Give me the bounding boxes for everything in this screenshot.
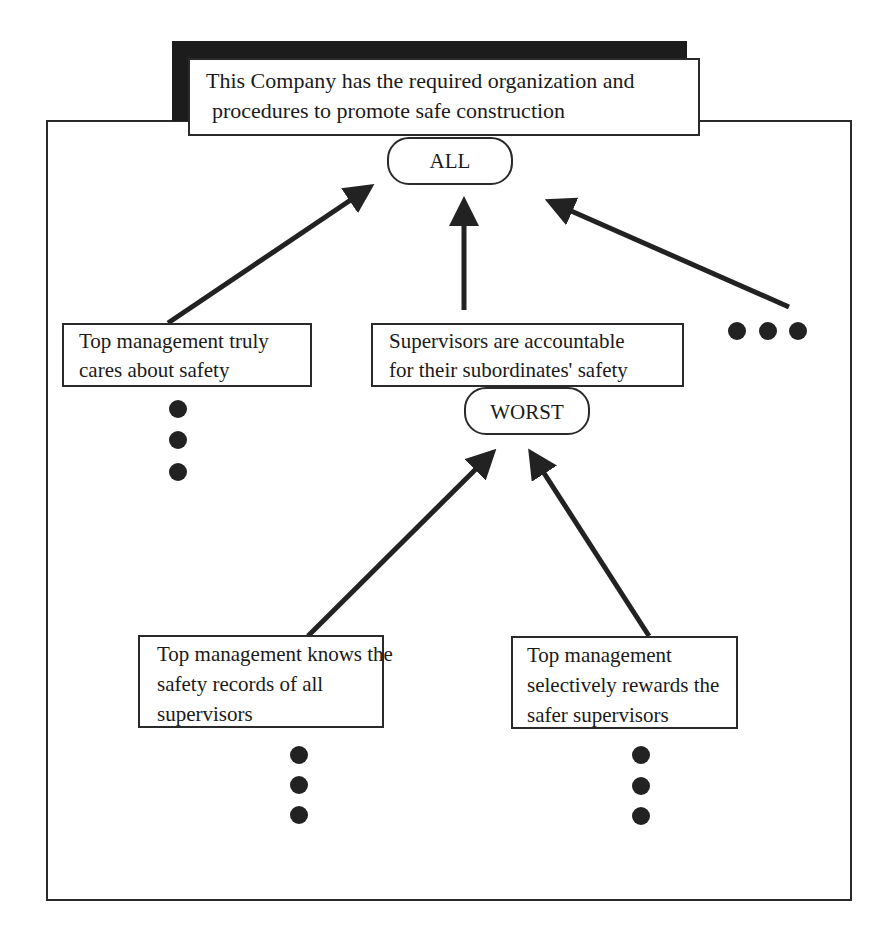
node-top-mgmt-cares-line-2: cares about safety <box>79 356 300 385</box>
node-mgmt-rewards-safer-line-3: safer supervisors <box>527 700 726 730</box>
node-mgmt-knows-records-line-3: supervisors <box>157 699 372 729</box>
node-mgmt-knows-records: Top management knows the safety records … <box>138 635 384 728</box>
node-supervisors-accountable-line-2: for their subordinates' safety <box>389 356 672 385</box>
node-supervisors-accountable: Supervisors are accountable for their su… <box>371 323 684 387</box>
node-mgmt-rewards-safer: Top management selectively rewards the s… <box>511 636 738 729</box>
ellipsis-dot <box>169 400 187 418</box>
all-gate: ALL <box>387 137 513 185</box>
root-goal-box: This Company has the required organizati… <box>188 58 700 136</box>
node-mgmt-knows-records-line-1: Top management knows the <box>157 639 372 669</box>
ellipsis-dot <box>759 322 777 340</box>
ellipsis-dot <box>632 746 650 764</box>
ellipsis-dot <box>290 806 308 824</box>
ellipsis-dot <box>789 322 807 340</box>
ellipsis-dot <box>169 463 187 481</box>
ellipsis-dot <box>632 777 650 795</box>
ellipsis-dot <box>728 322 746 340</box>
node-mgmt-rewards-safer-line-1: Top management <box>527 640 726 670</box>
ellipsis-dot <box>169 431 187 449</box>
worst-gate-label: WORST <box>490 400 564 424</box>
ellipsis-dot <box>290 776 308 794</box>
node-supervisors-accountable-line-1: Supervisors are accountable <box>389 327 672 356</box>
ellipsis-dot <box>290 746 308 764</box>
node-top-mgmt-cares-line-1: Top management truly <box>79 327 300 356</box>
node-mgmt-rewards-safer-line-2: selectively rewards the <box>527 670 726 700</box>
node-mgmt-knows-records-line-2: safety records of all <box>157 669 372 699</box>
all-gate-label: ALL <box>430 149 471 173</box>
node-top-mgmt-cares: Top management truly cares about safety <box>62 323 312 387</box>
root-goal-line-1: This Company has the required organizati… <box>206 66 688 96</box>
root-goal-line-2: procedures to promote safe construction <box>206 96 688 126</box>
worst-gate: WORST <box>464 387 590 435</box>
ellipsis-dot <box>632 807 650 825</box>
diagram-frame <box>46 120 852 901</box>
